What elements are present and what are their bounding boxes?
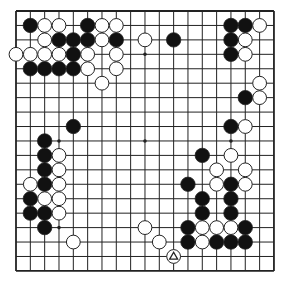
black-stone[interactable]: [66, 62, 80, 76]
black-stone[interactable]: [195, 148, 209, 162]
white-stone[interactable]: [52, 47, 66, 61]
white-stone[interactable]: [195, 221, 209, 235]
star-point: [229, 139, 233, 143]
star-point: [57, 139, 61, 143]
white-stone[interactable]: [52, 19, 66, 33]
black-stone[interactable]: [52, 33, 66, 47]
white-stone[interactable]: [253, 19, 267, 33]
black-stone[interactable]: [23, 62, 37, 76]
black-stone[interactable]: [37, 62, 51, 76]
white-stone[interactable]: [224, 221, 238, 235]
white-stone[interactable]: [109, 47, 123, 61]
black-stone[interactable]: [109, 33, 123, 47]
white-stone[interactable]: [38, 19, 52, 33]
white-stone[interactable]: [38, 47, 52, 61]
white-stone[interactable]: [52, 206, 66, 220]
black-stone[interactable]: [195, 192, 209, 206]
white-stone[interactable]: [224, 149, 238, 163]
white-stone[interactable]: [109, 19, 123, 33]
black-stone[interactable]: [224, 192, 238, 206]
white-stone[interactable]: [52, 177, 66, 191]
white-stone[interactable]: [195, 235, 209, 249]
star-point: [143, 53, 147, 57]
black-stone[interactable]: [238, 220, 252, 234]
black-stone[interactable]: [238, 90, 252, 104]
black-stone[interactable]: [80, 18, 94, 32]
star-point: [143, 139, 147, 143]
white-stone[interactable]: [238, 163, 252, 177]
white-stone[interactable]: [238, 33, 252, 47]
white-stone[interactable]: [152, 235, 166, 249]
white-stone[interactable]: [81, 47, 95, 61]
white-stone[interactable]: [238, 120, 252, 134]
black-stone[interactable]: [166, 33, 180, 47]
black-stone[interactable]: [23, 192, 37, 206]
black-stone[interactable]: [23, 18, 37, 32]
black-stone[interactable]: [37, 163, 51, 177]
black-stone[interactable]: [37, 177, 51, 191]
white-stone[interactable]: [210, 163, 224, 177]
white-stone[interactable]: [52, 149, 66, 163]
black-stone[interactable]: [37, 134, 51, 148]
black-stone[interactable]: [37, 206, 51, 220]
black-stone[interactable]: [224, 18, 238, 32]
white-stone[interactable]: [109, 62, 123, 76]
black-stone[interactable]: [224, 206, 238, 220]
white-stone[interactable]: [95, 76, 109, 90]
white-stone[interactable]: [210, 221, 224, 235]
white-stone[interactable]: [95, 33, 109, 47]
black-stone[interactable]: [238, 235, 252, 249]
black-stone[interactable]: [37, 148, 51, 162]
white-stone[interactable]: [253, 76, 267, 90]
black-stone[interactable]: [181, 177, 195, 191]
black-stone[interactable]: [66, 119, 80, 133]
black-stone[interactable]: [195, 206, 209, 220]
white-stone[interactable]: [81, 62, 95, 76]
black-stone[interactable]: [209, 235, 223, 249]
black-stone[interactable]: [224, 47, 238, 61]
black-stone[interactable]: [181, 235, 195, 249]
white-stone[interactable]: [138, 221, 152, 235]
black-stone[interactable]: [80, 33, 94, 47]
white-stone[interactable]: [38, 33, 52, 47]
white-stone[interactable]: [23, 177, 37, 191]
white-stone[interactable]: [52, 192, 66, 206]
white-stone[interactable]: [238, 177, 252, 191]
white-stone[interactable]: [138, 33, 152, 47]
white-stone[interactable]: [238, 47, 252, 61]
white-stone[interactable]: [210, 177, 224, 191]
star-point: [57, 226, 61, 230]
black-stone[interactable]: [224, 33, 238, 47]
white-stone[interactable]: [66, 235, 80, 249]
black-stone[interactable]: [66, 47, 80, 61]
black-stone[interactable]: [224, 119, 238, 133]
black-stone[interactable]: [181, 220, 195, 234]
go-board[interactable]: [0, 0, 291, 295]
black-stone[interactable]: [52, 62, 66, 76]
black-stone[interactable]: [238, 18, 252, 32]
white-stone[interactable]: [253, 91, 267, 105]
white-stone[interactable]: [9, 47, 23, 61]
black-stone[interactable]: [224, 177, 238, 191]
white-stone[interactable]: [95, 19, 109, 33]
white-stone[interactable]: [52, 163, 66, 177]
black-stone[interactable]: [37, 220, 51, 234]
black-stone[interactable]: [224, 235, 238, 249]
black-stone[interactable]: [23, 206, 37, 220]
white-stone[interactable]: [23, 47, 37, 61]
white-stone[interactable]: [38, 192, 52, 206]
black-stone[interactable]: [66, 33, 80, 47]
